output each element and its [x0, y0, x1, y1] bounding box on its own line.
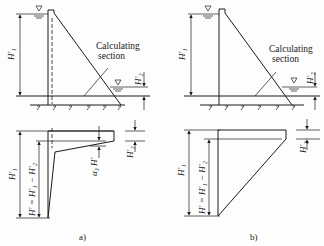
- dam-uplift-diagram: H′₁ H′₂ Calculating section H′₁ H′ = H′₁…: [0, 0, 324, 246]
- panel-b-uplift-diagram: H′₁ H′ = H′₁ − H′₂ H′₂ b): [176, 119, 320, 242]
- downstream-head-label: H′₂: [125, 146, 135, 159]
- panel-a-dam-section: H′₁ H′₂ Calculating section: [6, 6, 150, 110]
- downstream-head-label: H′₂: [305, 72, 315, 85]
- downstream-head-label: H′₂: [133, 73, 143, 86]
- water-level-icon: [115, 80, 121, 85]
- water-level-icon: [36, 6, 42, 11]
- upstream-head-label: H′₁: [6, 48, 16, 61]
- section-label-line2: section: [272, 54, 299, 64]
- section-label-line1: Calculating: [269, 44, 313, 54]
- upstream-head-label: H′₁: [177, 48, 187, 61]
- uplift-pressure-shape: [218, 130, 286, 216]
- caption-a: a): [79, 232, 86, 242]
- panel-a-uplift-diagram: H′₁ H′ = H′₁ − H′₂ α₃ H′ H′₂ a): [7, 120, 145, 242]
- reduced-head-label: H′ = H′₁ − H′₂: [197, 161, 207, 215]
- caption-b: b): [250, 232, 258, 242]
- upstream-head-label: H′₁: [176, 164, 186, 177]
- downstream-head-label: H′₂: [298, 141, 308, 154]
- section-label-line2: section: [98, 51, 125, 61]
- water-level-icon: [205, 6, 211, 11]
- uplift-pressure-shape: [48, 131, 114, 218]
- diagram-svg: H′₁ H′₂ Calculating section H′₁ H′ = H′₁…: [0, 0, 324, 246]
- section-label-line1: Calculating: [96, 41, 140, 51]
- panel-b-dam-section: H′₁ H′₂ Calculating section: [177, 6, 320, 110]
- water-level-icon: [291, 78, 297, 83]
- reduced-head-label: H′ = H′₁ − H′₂: [27, 163, 37, 217]
- alpha-label: α₃ H′: [89, 156, 99, 176]
- upstream-head-label: H′₁: [7, 168, 17, 181]
